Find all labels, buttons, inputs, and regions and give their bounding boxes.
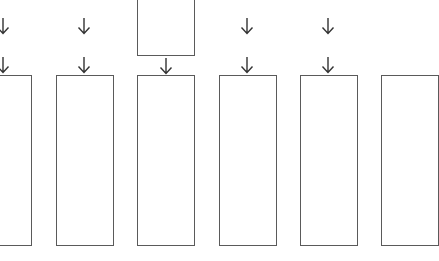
column-box-3 [137,75,195,246]
down-arrow-icon [77,17,91,35]
down-arrow-icon [159,57,173,75]
column-box-2 [56,75,114,246]
column-box-6-partial [381,75,439,246]
column-box-5 [300,75,358,246]
down-arrow-icon [0,17,10,35]
column-box-4 [219,75,277,246]
down-arrow-icon [321,56,335,74]
down-arrow-icon [240,56,254,74]
down-arrow-icon [0,56,10,74]
down-arrow-icon [77,56,91,74]
top-box [137,0,195,56]
column-box-1 [0,75,32,246]
down-arrow-icon [240,17,254,35]
down-arrow-icon [321,17,335,35]
